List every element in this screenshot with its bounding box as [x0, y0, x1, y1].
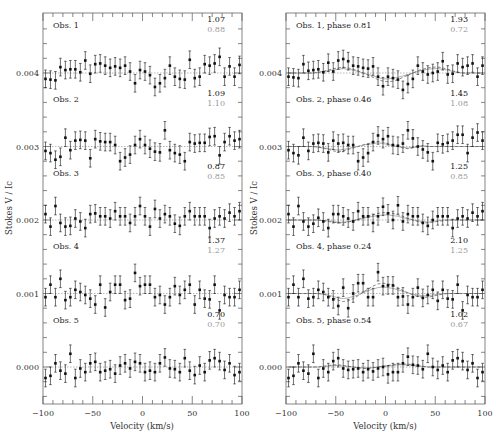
data-point [312, 288, 315, 306]
data-point [377, 360, 380, 378]
observation-label: Obs. 3 [53, 169, 79, 178]
x-tick-label: 0 [383, 409, 388, 418]
data-point [208, 352, 211, 370]
data-point [342, 360, 345, 378]
data-point [134, 264, 137, 282]
data-point [292, 144, 295, 162]
data-point [159, 355, 162, 373]
value-label-grey: 0.85 [450, 172, 468, 181]
observation-label: Obs. 2 [53, 95, 79, 104]
data-point [174, 277, 177, 295]
data-point [292, 367, 295, 385]
x-tick-label: −50 [84, 409, 101, 418]
data-point [412, 208, 415, 226]
data-point [441, 135, 444, 153]
data-point [476, 288, 479, 306]
x-tick-label: −50 [327, 409, 344, 418]
data-point [367, 360, 370, 378]
data-point [64, 291, 67, 309]
data-point [169, 141, 172, 159]
data-point [481, 363, 484, 381]
data-point [104, 57, 107, 75]
data-point [54, 288, 57, 306]
data-point [337, 52, 340, 70]
data-point [99, 55, 102, 73]
data-point [307, 142, 310, 160]
data-point [481, 281, 484, 299]
data-point [149, 218, 152, 236]
observation-label: Obs. 1, phase 0.81 [296, 21, 371, 30]
x-tick-label: 50 [430, 409, 440, 418]
value-label-grey: 0.67 [450, 320, 468, 329]
right-panel: −100−500501000.0000.0010.0020.0030.004 O… [249, 13, 493, 431]
data-point [183, 71, 186, 89]
data-point [352, 213, 355, 231]
data-point [69, 61, 72, 79]
data-point [198, 281, 201, 299]
data-point [357, 360, 360, 378]
data-point [377, 68, 380, 86]
data-point [159, 210, 162, 228]
data-point [134, 353, 137, 371]
data-point [44, 288, 47, 306]
data-point [476, 208, 479, 226]
data-point [119, 208, 122, 226]
data-point [357, 152, 360, 170]
data-point [154, 288, 157, 306]
data-point [119, 276, 122, 294]
data-point [129, 63, 132, 81]
data-point [332, 63, 335, 81]
left-labels: Obs. 11.070.88Obs. 21.091.10Obs. 30.870.… [53, 15, 225, 329]
data-point [139, 61, 142, 79]
data-point [218, 48, 221, 66]
data-point [471, 129, 474, 147]
data-point [134, 208, 137, 226]
data-point [302, 362, 305, 380]
data-point [287, 369, 290, 387]
data-point [352, 285, 355, 303]
data-point [99, 276, 102, 294]
data-point [347, 299, 350, 317]
data-point [466, 144, 469, 162]
data-point [287, 141, 290, 159]
data-point [99, 208, 102, 226]
data-point [198, 357, 201, 375]
data-point [84, 219, 87, 237]
data-point [169, 57, 172, 75]
data-point [44, 142, 47, 160]
data-point [312, 135, 315, 153]
data-point [183, 281, 186, 299]
data-point [124, 149, 127, 167]
data-point [238, 130, 241, 148]
data-point [79, 131, 82, 149]
data-point [203, 290, 206, 308]
data-point [94, 353, 97, 371]
data-point [466, 210, 469, 228]
data-point [59, 362, 62, 380]
data-point [109, 210, 112, 228]
data-point [79, 63, 82, 81]
data-point [426, 345, 429, 363]
data-point [307, 62, 310, 80]
data-point [218, 208, 221, 226]
data-point [446, 134, 449, 152]
data-point [397, 288, 400, 306]
data-point [317, 61, 320, 79]
data-point [397, 196, 400, 214]
data-point [461, 208, 464, 226]
data-point [74, 369, 77, 387]
data-point [203, 363, 206, 381]
data-point [44, 369, 47, 387]
data-point [412, 356, 415, 374]
y-tick-label: 0.004 [259, 69, 282, 78]
data-point [233, 68, 236, 86]
data-point [461, 126, 464, 144]
value-label-black: 1.45 [450, 89, 468, 98]
data-point [402, 213, 405, 231]
data-point [174, 68, 177, 86]
data-point [174, 144, 177, 162]
data-point [441, 357, 444, 375]
data-point [441, 208, 444, 226]
data-point [179, 363, 182, 381]
data-point [407, 296, 410, 314]
